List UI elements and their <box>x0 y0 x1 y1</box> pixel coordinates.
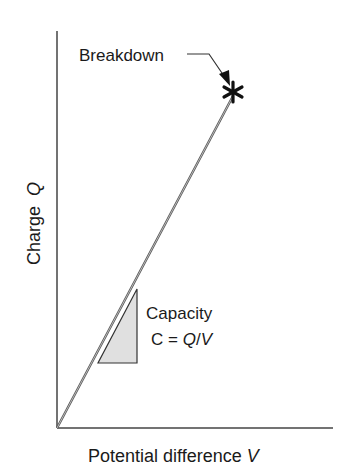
breakdown-arrow-icon <box>219 70 230 86</box>
formula-v: V <box>201 330 214 349</box>
x-axis-var: V <box>247 446 261 466</box>
breakdown-asterisk-icon <box>224 82 242 102</box>
x-axis-label: Potential difference V <box>88 446 261 466</box>
capacity-label: Capacity <box>146 304 213 323</box>
breakdown-label: Breakdown <box>79 46 164 65</box>
y-axis-label: Charge Q <box>24 167 44 290</box>
slope-triangle <box>98 289 137 363</box>
charge-line-highlight <box>57 96 233 428</box>
formula-q: Q <box>183 330 196 349</box>
x-axis-label-text: Potential difference <box>88 446 247 466</box>
capacitor-diagram: Breakdown Capacity C = Q/V Potential dif… <box>0 0 353 475</box>
y-axis-var: Q <box>24 182 44 196</box>
formula-c: C = <box>151 330 183 349</box>
y-axis-label-text: Charge <box>24 196 44 265</box>
breakdown-leader-line <box>187 54 224 76</box>
capacity-formula: C = Q/V <box>151 330 214 349</box>
